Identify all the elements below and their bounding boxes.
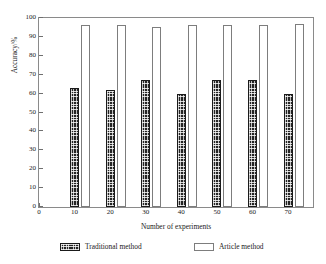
legend-label-article: Article method xyxy=(219,243,264,251)
chart-figure: Accuracy/% 0102030405060708090100 010203… xyxy=(0,0,326,264)
x-axis-tick: 0 xyxy=(39,203,40,207)
y-axis-tick: 70 xyxy=(39,74,43,75)
y-axis-tick: 80 xyxy=(39,55,43,56)
legend-swatch-traditional-icon xyxy=(60,243,80,251)
y-axis-tick: 40 xyxy=(39,130,43,131)
bar-traditional-method xyxy=(141,80,150,207)
bar-traditional-method xyxy=(70,88,79,207)
x-axis-tick-label: 30 xyxy=(142,209,149,216)
y-axis-tick: 10 xyxy=(39,187,43,188)
y-axis-tick: 20 xyxy=(39,168,43,169)
x-axis-tick-label: 70 xyxy=(285,209,292,216)
x-axis-tick-label: 60 xyxy=(249,209,256,216)
y-axis-tick-label: 10 xyxy=(14,184,36,191)
legend-swatch-article-icon xyxy=(194,243,214,251)
x-axis-tick-label: 40 xyxy=(178,209,185,216)
y-axis-tick-label: 30 xyxy=(14,146,36,153)
x-axis-tick-label: 50 xyxy=(213,209,220,216)
y-axis-tick-label: 50 xyxy=(14,108,36,115)
chart-legend: Traditional method Article method xyxy=(38,241,314,255)
y-axis-tick-label: 0 xyxy=(14,203,36,210)
bar-traditional-method xyxy=(106,90,115,207)
bar-traditional-method xyxy=(212,80,221,207)
plot-frame: 0102030405060708090100 010203040506070 xyxy=(38,17,314,208)
bar-traditional-method xyxy=(248,80,257,207)
bar-traditional-method xyxy=(284,94,293,207)
bar-article-method xyxy=(295,24,304,207)
y-axis-tick: 100 xyxy=(39,17,43,18)
y-axis-tick: 50 xyxy=(39,112,43,113)
y-axis-tick-label: 80 xyxy=(14,51,36,58)
x-axis-tick-label: 20 xyxy=(107,209,114,216)
plot-area: 0102030405060708090100 010203040506070 xyxy=(39,18,313,207)
bar-article-method xyxy=(117,25,126,207)
bar-article-method xyxy=(259,25,268,207)
bar-article-method xyxy=(188,25,197,207)
x-axis-tick-label: 10 xyxy=(71,209,78,216)
x-axis-tick-label: 0 xyxy=(37,209,41,216)
y-axis-tick-label: 90 xyxy=(14,32,36,39)
bar-article-method xyxy=(223,25,232,207)
bar-traditional-method xyxy=(177,94,186,207)
y-axis-tick: 90 xyxy=(39,36,43,37)
bar-article-method xyxy=(152,27,161,207)
legend-label-traditional: Traditional method xyxy=(85,243,142,251)
y-axis-tick-label: 100 xyxy=(14,14,36,21)
y-axis-tick-label: 20 xyxy=(14,165,36,172)
y-axis-tick: 30 xyxy=(39,149,43,150)
y-axis-tick: 60 xyxy=(39,93,43,94)
y-axis-tick-label: 70 xyxy=(14,70,36,77)
legend-item-traditional-method: Traditional method xyxy=(60,241,142,253)
bar-article-method xyxy=(81,25,90,207)
y-axis-tick-label: 60 xyxy=(14,89,36,96)
legend-item-article-method: Article method xyxy=(194,241,264,253)
y-axis-tick-label: 40 xyxy=(14,127,36,134)
x-axis-title: Number of experiments xyxy=(38,222,314,231)
